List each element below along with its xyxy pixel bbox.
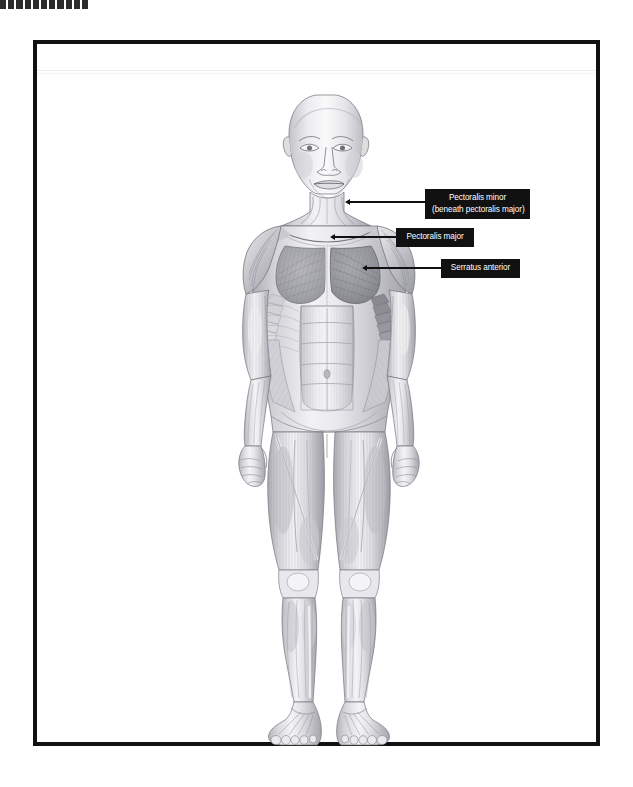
lower-leg-group <box>282 598 376 702</box>
leader-line-serratus-anterior <box>365 267 442 269</box>
dash-segment <box>16 0 22 9</box>
dash-segment <box>82 0 88 9</box>
dash-segment <box>8 0 14 9</box>
label-pectoralis-minor-line1: Pectoralis minor <box>449 193 506 202</box>
dash-segment <box>66 0 72 9</box>
label-pectoralis-major-line1: Pectoralis major <box>406 232 463 241</box>
foot-group <box>269 702 390 745</box>
dash-segment <box>41 0 47 9</box>
label-serratus-anterior-line1: Serratus anterior <box>451 263 510 272</box>
leader-line-pectoralis-major <box>333 236 397 238</box>
thigh-group <box>268 432 391 570</box>
hand-group <box>239 446 419 487</box>
dashed-marker-bar <box>0 0 88 9</box>
anatomical-figure <box>33 40 600 746</box>
label-pectoralis-minor-line2: (beneath pectoralis major) <box>432 204 523 216</box>
leader-tip-pectoralis-major <box>330 234 335 240</box>
leader-tip-pectoralis-minor <box>345 199 350 205</box>
leader-line-pectoralis-minor <box>348 201 426 203</box>
dash-segment <box>49 0 55 9</box>
label-serratus-anterior: Serratus anterior <box>441 259 520 278</box>
neck-group <box>281 192 371 226</box>
head-group <box>283 95 369 198</box>
dash-segment <box>74 0 80 9</box>
label-pectoralis-minor: Pectoralis minor (beneath pectoralis maj… <box>425 189 530 219</box>
dash-segment <box>0 0 6 9</box>
illustration-stage <box>33 40 600 746</box>
knee-group <box>279 570 380 598</box>
dash-segment <box>25 0 31 9</box>
torso-group <box>253 226 406 432</box>
leader-tip-serratus-anterior <box>362 265 367 271</box>
label-pectoralis-major: Pectoralis major <box>396 228 474 247</box>
dash-segment <box>57 0 63 9</box>
dash-segment <box>33 0 39 9</box>
figure-body <box>239 95 419 745</box>
